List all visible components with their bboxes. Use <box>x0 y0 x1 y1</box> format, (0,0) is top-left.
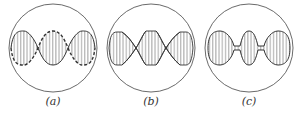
panel-c <box>205 4 293 92</box>
panel-label-c: (c) <box>229 95 269 108</box>
panel-label-a: (a) <box>33 95 73 108</box>
panel-label-b: (b) <box>131 95 171 108</box>
panel-a <box>9 4 97 92</box>
panel-b <box>107 4 195 92</box>
